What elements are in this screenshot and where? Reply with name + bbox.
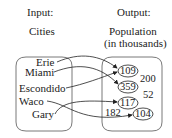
output-subheader-line2: (in thousands) [104,37,167,49]
input-subheader: Cities [29,25,55,37]
output-182: 182 [105,107,121,119]
output-subheader-line1: Population [109,25,157,37]
arrow-escondido-109 [66,72,117,88]
output-117: 117 [120,97,135,109]
input-waco: Waco [19,95,44,107]
input-miami: Miami [25,66,54,78]
input-escondido: Escondido [19,82,65,94]
output-104: 104 [135,108,151,120]
input-header: Input: [27,6,53,18]
output-header: Output: [117,6,151,18]
output-52: 52 [143,89,154,101]
output-200: 200 [140,73,156,85]
output-359: 359 [120,81,136,93]
input-gary: Gary [32,108,54,120]
output-109: 109 [120,65,136,77]
